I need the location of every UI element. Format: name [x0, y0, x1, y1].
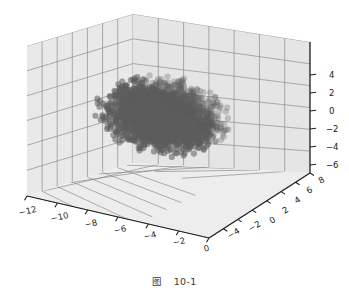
scatter3d-plot	[0, 0, 349, 303]
z-tick-5: −6	[326, 161, 339, 170]
z-tick-0: 4	[329, 71, 334, 80]
z-tick-4: −4	[326, 143, 339, 152]
figure-container: −12−10−8−6−4−20 −4−202468 420−2−4−6 图10-…	[0, 0, 349, 303]
z-tick-1: 2	[329, 89, 334, 98]
z-tick-2: 0	[329, 107, 334, 116]
caption-number: 10-1	[174, 276, 197, 287]
z-tick-3: −2	[326, 125, 339, 134]
figure-caption: 图10-1	[0, 274, 349, 288]
caption-label: 图	[152, 276, 162, 287]
